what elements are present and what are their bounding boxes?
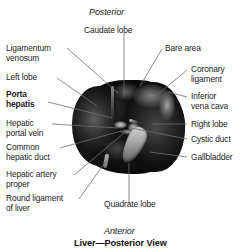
label-porta-hepatis-line2: hepatis	[6, 100, 34, 110]
liver-posterior-view-figure: Posterior Anterior Caudate lobe Bare are…	[0, 0, 252, 249]
label-gallbladder: Gallbladder	[191, 153, 233, 163]
label-hepatic-portal-vein-line2: portal vein	[6, 129, 43, 139]
label-left-lobe: Left lobe	[6, 73, 37, 83]
inferior-vena-cava-region	[159, 90, 175, 120]
figure-title: Liver—Posterior View	[74, 238, 167, 248]
label-inferior-vena-cava-line2: vena cava	[191, 102, 228, 112]
label-cystic-duct: Cystic duct	[191, 135, 231, 145]
label-round-ligament-line2: of liver	[6, 204, 30, 214]
ligamentum-venosum-region	[111, 86, 114, 120]
label-caudate-lobe: Caudate lobe	[84, 26, 132, 36]
orientation-posterior: Posterior	[89, 8, 124, 18]
label-coronary-ligament-line2: ligament	[191, 75, 222, 85]
label-quadrate-lobe: Quadrate lobe	[104, 200, 156, 210]
label-ligamentum-venosum-line2: venosum	[6, 54, 39, 64]
label-hepatic-artery-proper-line2: proper	[6, 180, 30, 190]
label-bare-area: Bare area	[165, 44, 201, 54]
label-right-lobe: Right lobe	[191, 120, 228, 130]
label-common-hepatic-duct-line2: hepatic duct	[6, 153, 50, 163]
caudate-lobe-region	[113, 82, 139, 100]
liver-anatomical-image	[73, 80, 185, 174]
orientation-anterior: Anterior	[104, 227, 135, 237]
